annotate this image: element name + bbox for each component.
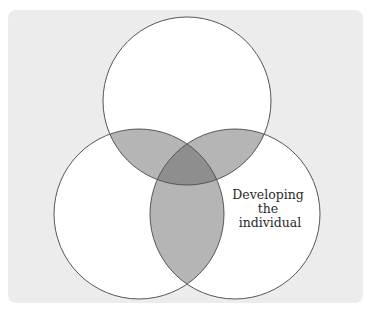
label-line-2: the	[258, 201, 278, 216]
venn-diagram: Developing the individual	[0, 0, 372, 313]
label-line-1: Developing	[232, 187, 303, 202]
label-line-3: individual	[239, 215, 302, 230]
